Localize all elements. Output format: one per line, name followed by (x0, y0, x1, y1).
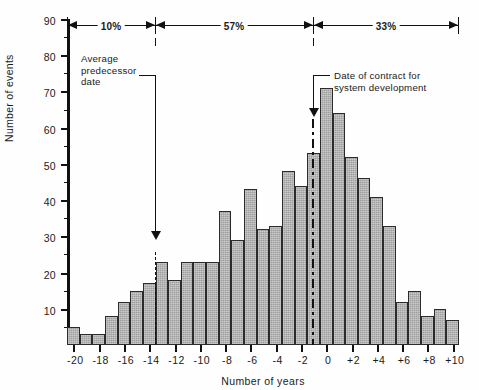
bar-bin--19 (80, 334, 93, 345)
x-tick-4: +4 (377, 345, 379, 352)
x-tick-label--10: -10 (194, 354, 210, 366)
x-axis: -20 -18 -16 -14 -12 -10 -8 -6 -4 -2 0 +2… (67, 345, 459, 390)
bar-bin--12 (168, 280, 181, 345)
average-predecessor-date-leader (155, 76, 156, 231)
bar-bin--6 (244, 189, 257, 345)
x-tick--14: -14 (149, 345, 151, 352)
average-predecessor-date-leader-elbow (139, 75, 156, 76)
y-tick-label-90: 90 (44, 15, 56, 27)
bar-bin-0 (320, 88, 333, 345)
bar-bin--14 (143, 283, 156, 345)
x-tick-6: +6 (402, 345, 404, 352)
x-tick-label--12: -12 (168, 354, 184, 366)
date-of-contract-dashdot-line (312, 119, 314, 345)
x-tick--20: -20 (73, 345, 75, 352)
x-tick-label--6: -6 (247, 354, 257, 366)
histogram-figure: 10% 57% 33% 90 80 70 60 50 (0, 0, 479, 390)
callout-line-1: Average (81, 53, 141, 65)
bar-bin--8 (219, 211, 232, 345)
y-tick-label-80: 80 (44, 51, 56, 63)
x-tick-label-4: +4 (372, 354, 385, 366)
bar-bin--5 (257, 229, 270, 345)
y-tick-label-50: 50 (44, 160, 56, 172)
bar-bin-6 (396, 302, 409, 346)
bar-bin--7 (231, 240, 244, 345)
x-tick-label--16: -16 (118, 354, 134, 366)
callout-line-2: system development (334, 82, 464, 94)
average-predecessor-date-label: Average predecessor date (81, 53, 141, 88)
x-tick-label--18: -18 (92, 354, 108, 366)
x-tick-label--2: -2 (298, 354, 308, 366)
x-tick-label-0: 0 (325, 354, 331, 366)
date-of-contract-leader (313, 76, 314, 109)
bar-bin-10 (446, 320, 459, 345)
x-tick--2: -2 (301, 345, 303, 352)
y-tick-label-10: 10 (44, 305, 56, 317)
y-tick-label-30: 30 (44, 232, 56, 244)
x-tick--16: -16 (124, 345, 126, 352)
x-tick-10: +10 (453, 345, 455, 352)
bar-bin-7 (408, 291, 421, 345)
bar-bin--20 (67, 327, 80, 345)
bar-bin-5 (383, 226, 396, 346)
bar-bin--9 (206, 262, 219, 345)
bar-bin-8 (421, 316, 434, 345)
y-tick-label-70: 70 (44, 87, 56, 99)
y-tick-label-60: 60 (44, 124, 56, 136)
x-tick-8: +8 (427, 345, 429, 352)
bar-bin--17 (105, 316, 118, 345)
x-tick--10: -10 (200, 345, 202, 352)
bar-bin--15 (130, 291, 143, 345)
bar-bin--2 (295, 186, 308, 345)
y-tick-label-20: 20 (44, 269, 56, 281)
bar-bin-4 (370, 197, 383, 346)
bar-bin--4 (269, 226, 282, 346)
bar-bin--3 (282, 171, 295, 345)
x-tick--6: -6 (250, 345, 252, 352)
bar-bin--10 (193, 262, 206, 345)
y-tick-label-40: 40 (44, 196, 56, 208)
x-tick-label-8: +8 (423, 354, 436, 366)
bar-bin--11 (181, 262, 194, 345)
callout-line-3: date (81, 76, 141, 88)
date-of-contract-leader-elbow (313, 75, 330, 76)
bar-bin--16 (118, 302, 131, 346)
x-tick-label-2: +2 (347, 354, 360, 366)
x-tick-label-10: +10 (445, 354, 464, 366)
x-tick--12: -12 (175, 345, 177, 352)
x-tick-label-6: +6 (398, 354, 411, 366)
x-tick-label--14: -14 (143, 354, 159, 366)
bar-bin--18 (92, 334, 105, 345)
bar-bin-9 (434, 309, 447, 345)
bar-bin-3 (358, 178, 371, 345)
x-tick--4: -4 (276, 345, 278, 352)
x-tick--18: -18 (99, 345, 101, 352)
average-predecessor-date-dashed-line (155, 252, 156, 345)
x-tick-label--8: -8 (222, 354, 232, 366)
callout-line-1: Date of contract for (334, 70, 464, 82)
date-of-contract-label: Date of contract for system development (334, 70, 464, 93)
x-tick-label--4: -4 (273, 354, 283, 366)
bar-bin-1 (333, 113, 346, 345)
x-tick--8: -8 (225, 345, 227, 352)
x-tick-label--20: -20 (67, 354, 83, 366)
bar-bin-2 (345, 157, 358, 345)
date-of-contract-arrow (309, 108, 319, 117)
x-axis-title: Number of years (67, 375, 459, 387)
callout-line-2: predecessor (81, 65, 141, 77)
x-tick-0: 0 (326, 345, 328, 352)
y-axis-title: Number of events (3, 128, 15, 142)
x-tick-2: +2 (352, 345, 354, 352)
average-predecessor-date-arrow (151, 231, 161, 240)
bar-bin--13 (156, 262, 169, 345)
